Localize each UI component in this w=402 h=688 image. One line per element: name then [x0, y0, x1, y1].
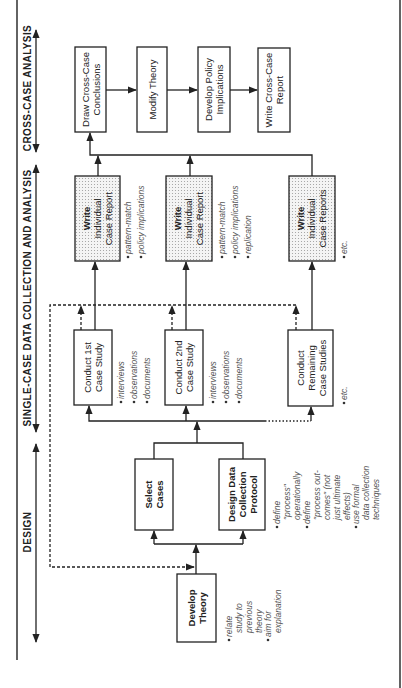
box-text: Write Cross-Case: [263, 53, 274, 128]
box-text: Individual: [183, 198, 194, 238]
svg-text:data collection: data collection: [361, 465, 371, 520]
connector-from-design: [154, 443, 243, 459]
box-text: Case Report: [194, 191, 205, 245]
box-text: Protocol: [248, 475, 259, 514]
box-text: Case Report: [103, 191, 114, 245]
box-text: Implications: [214, 64, 225, 114]
svg-text:define: define: [272, 501, 282, 524]
svg-text:"process out-: "process out-: [312, 470, 322, 520]
connector-to-conclusions: [90, 133, 312, 176]
notes-conduct-2nd: interviews observations documents: [208, 350, 244, 403]
svg-text:replication: replication: [243, 215, 253, 254]
svg-text:etc.: etc.: [339, 386, 349, 400]
box-text: Conduct 1st: [82, 342, 93, 393]
box-text: Collection: [237, 471, 248, 517]
box-text: Develop: [186, 589, 197, 626]
svg-text:study to: study to: [234, 603, 244, 633]
phase-label-single-case: SINGLE-CASE DATA COLLECTION AND ANALYSIS: [22, 170, 33, 427]
svg-text:previous: previous: [244, 600, 254, 634]
notes-conduct-remaining: etc.: [339, 386, 349, 404]
notes-design-protocol: define "process" operationally define "p…: [272, 465, 381, 528]
case-study-method-diagram: CROSS-CASE ANALYSIS SINGLE-CASE DATA COL…: [0, 0, 402, 688]
svg-text:just ultimate: just ultimate: [332, 474, 342, 521]
svg-text:define: define: [302, 501, 312, 524]
svg-text:documents: documents: [234, 357, 244, 399]
svg-text:interviews: interviews: [208, 360, 218, 399]
svg-text:policy implications: policy implications: [230, 185, 240, 255]
svg-text:documents: documents: [142, 357, 152, 399]
phase-label-design: DESIGN: [22, 512, 33, 553]
box-text: Develop Policy: [203, 58, 214, 121]
phase-label-cross-case: CROSS-CASE ANALYSIS: [22, 25, 33, 151]
box-text: Write: [172, 207, 183, 231]
box-text: Report: [274, 75, 285, 104]
svg-text:operationally: operationally: [292, 471, 302, 520]
connector-to-conduct-1st: [89, 406, 265, 421]
svg-text:etc.: etc.: [339, 240, 349, 254]
svg-text:relate: relate: [224, 615, 234, 637]
svg-text:explanation: explanation: [273, 589, 283, 633]
box-text: Select: [143, 480, 154, 509]
svg-text:interviews: interviews: [116, 360, 126, 399]
box-text: Individual: [306, 198, 317, 238]
box-text: Design Data: [226, 466, 237, 522]
notes-write-report-1: pattern-match policy implications: [123, 185, 146, 259]
box-text: Individual: [92, 198, 103, 238]
svg-text:aim for: aim for: [263, 610, 273, 637]
box-text: Conduct: [295, 350, 306, 386]
svg-text:comes" (not: comes" (not: [322, 474, 332, 520]
svg-text:observations: observations: [221, 350, 231, 399]
box-text: Write: [295, 207, 306, 231]
box-text: Case Reports: [317, 189, 328, 247]
svg-text:use formal: use formal: [351, 483, 361, 524]
svg-text:"process": "process": [282, 483, 292, 520]
notes-develop-theory: relate study to previous theory aim for …: [224, 589, 283, 641]
svg-text:policy implications: policy implications: [136, 185, 146, 255]
box-text: Modify Theory: [147, 59, 158, 119]
box-text: Case Studies: [317, 340, 328, 397]
box-text: Conclusions: [91, 63, 102, 115]
box-text: Cases: [154, 481, 165, 509]
svg-text:pattern-match: pattern-match: [123, 201, 133, 255]
box-text: Conduct 2nd: [173, 341, 184, 395]
svg-text:observations: observations: [129, 350, 139, 399]
box-text: Case Study: [184, 343, 195, 392]
box-text: Write: [81, 207, 92, 231]
box-text: Draw Cross-Case: [80, 52, 91, 127]
box-text: Theory: [197, 591, 208, 623]
notes-write-report-2: pattern-match policy implications replic…: [217, 185, 253, 259]
svg-text:pattern-match: pattern-match: [217, 201, 227, 255]
box-text: Case Study: [93, 343, 104, 392]
svg-text:techniques: techniques: [371, 478, 381, 520]
box-text: Remaining: [306, 345, 317, 390]
notes-conduct-1st: interviews observations documents: [116, 350, 152, 403]
notes-write-reports-remaining: etc.: [339, 240, 349, 258]
